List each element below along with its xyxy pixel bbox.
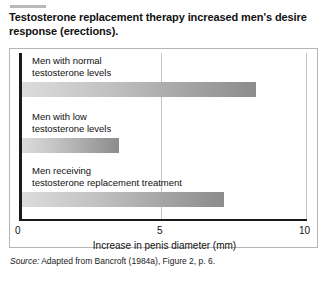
bar-label: Men with normal testosterone levels <box>22 55 312 79</box>
x-tick-label: 10 <box>299 225 310 236</box>
figure-title: Testosterone replacement therapy increas… <box>9 10 309 38</box>
bar-label: Men with low testosterone levels <box>22 111 312 135</box>
bar <box>22 192 224 207</box>
plot-frame: Men with normal testosterone levels Men … <box>9 48 318 248</box>
x-axis-title: Increase in penis diameter (mm) <box>10 240 319 251</box>
bar <box>22 82 256 97</box>
plot-area: Men with normal testosterone levels Men … <box>10 49 317 247</box>
source-label: Source: <box>10 256 39 266</box>
bar <box>22 138 119 153</box>
bar-group: Men receiving testosterone replacement t… <box>22 165 312 207</box>
source-text: Adapted from Bancroft (1984a), Figure 2,… <box>39 256 215 266</box>
x-axis-line <box>19 219 307 221</box>
bar-group: Men with low testosterone levels <box>22 111 312 153</box>
title-rule <box>10 5 46 8</box>
bar-label: Men receiving testosterone replacement t… <box>22 165 312 189</box>
source-note: Source: Adapted from Bancroft (1984a), F… <box>10 256 215 266</box>
figure-container: Testosterone replacement therapy increas… <box>0 0 329 287</box>
bar-group: Men with normal testosterone levels <box>22 55 312 97</box>
x-tick-label: 0 <box>15 225 21 236</box>
x-tick-label: 5 <box>157 225 163 236</box>
